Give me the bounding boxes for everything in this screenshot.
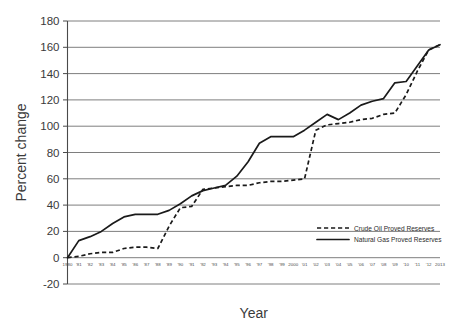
x-tick-label: '94 (223, 262, 229, 267)
x-tick-label: '89 (166, 262, 172, 267)
legend: Crude Oil Proved ReservesNatural Gas Pro… (317, 225, 442, 244)
x-tick-label: '91 (189, 262, 195, 267)
x-tick-label: '90 (178, 262, 184, 267)
y-tick-label: 20 (47, 225, 60, 237)
y-tick-label: 160 (40, 41, 59, 53)
x-tick-label: '85 (121, 262, 127, 267)
y-tick-label: 180 (40, 15, 59, 27)
x-axis-ticks: 1980'81'82'83'84'85'86'87'88'89'90'91'92… (63, 262, 446, 267)
x-tick-label: '06 (358, 262, 364, 267)
line-chart: -20020406080100120140160180 1980'81'82'8… (0, 0, 465, 333)
x-tick-label: '96 (245, 262, 251, 267)
y-tick-label: 120 (40, 94, 59, 106)
x-tick-label: '01 (302, 262, 308, 267)
y-tick-label: 80 (47, 147, 60, 159)
legend-label: Natural Gas Proved Reserves (354, 236, 442, 243)
y-tick-label: 60 (47, 173, 60, 185)
x-tick-label: '95 (234, 262, 240, 267)
y-axis-ticks: -20020406080100120140160180 (40, 15, 67, 290)
x-tick-label: '12 (426, 262, 432, 267)
x-tick-label: '99 (279, 262, 285, 267)
x-tick-label: '87 (144, 262, 150, 267)
x-tick-label: 2000 (288, 262, 298, 267)
x-tick-label: '03 (324, 262, 330, 267)
x-tick-label: '02 (313, 262, 319, 267)
y-tick-label: -20 (43, 278, 60, 290)
y-axis-label: Percent change (13, 103, 29, 201)
x-tick-label: '10 (403, 262, 409, 267)
x-tick-label: '04 (336, 262, 342, 267)
y-tick-label: 40 (47, 199, 60, 211)
x-tick-label: '81 (76, 262, 82, 267)
x-tick-label: '83 (98, 262, 104, 267)
y-tick-label: 100 (40, 120, 59, 132)
y-tick-label: 140 (40, 68, 59, 80)
x-tick-label: '07 (369, 262, 375, 267)
y-tick-label: 0 (53, 252, 59, 264)
x-tick-label: '97 (257, 262, 263, 267)
x-tick-label: '05 (347, 262, 353, 267)
x-tick-label: '84 (110, 262, 116, 267)
legend-label: Crude Oil Proved Reserves (354, 225, 435, 232)
x-tick-label: '93 (211, 262, 217, 267)
x-tick-label: 2013 (435, 262, 445, 267)
x-tick-label: '88 (155, 262, 161, 267)
x-tick-label: '82 (87, 262, 93, 267)
x-tick-label: '86 (132, 262, 138, 267)
x-tick-label: '98 (268, 262, 274, 267)
x-tick-label: '09 (392, 262, 398, 267)
x-tick-label: '92 (200, 262, 206, 267)
x-tick-label: '08 (381, 262, 387, 267)
x-axis-label: Year (240, 305, 269, 321)
x-tick-label: '11 (415, 262, 421, 267)
chart-container: -20020406080100120140160180 1980'81'82'8… (0, 0, 465, 333)
